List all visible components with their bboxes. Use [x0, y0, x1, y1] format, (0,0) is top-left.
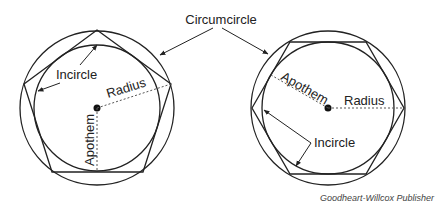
- polygon-circles-diagram: Circumcircle Incircle Radius Apothem Apo…: [0, 0, 442, 208]
- right-hexagon-figure: Apothem Radius Incircle: [251, 31, 405, 185]
- right-incircle-arrow-down: [296, 143, 311, 166]
- left-apothem-label: Apothem: [82, 114, 97, 166]
- left-radius-label: Radius: [104, 75, 148, 101]
- publisher-credit: Goodheart-Willcox Publisher: [320, 193, 435, 203]
- circumcircle-label: Circumcircle: [185, 12, 257, 27]
- left-incircle-arrow-left: [38, 83, 60, 91]
- right-incircle-label: Incircle: [314, 135, 355, 150]
- circumcircle-arrow-left: [160, 28, 213, 55]
- left-incircle-label: Incircle: [56, 67, 97, 82]
- right-apothem-label: Apothem: [279, 69, 332, 108]
- right-radius-label: Radius: [344, 93, 385, 108]
- right-incircle-arrow-left: [264, 110, 311, 143]
- left-incircle-arrow-up: [80, 45, 97, 65]
- left-pentagon-figure: Incircle Radius Apothem: [20, 30, 174, 185]
- circumcircle-arrow-right: [222, 28, 268, 54]
